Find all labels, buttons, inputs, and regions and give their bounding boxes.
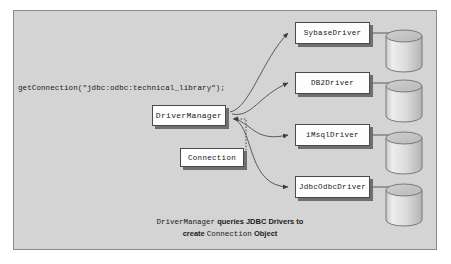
diagram-caption: DriverManager queries JDBC Drivers to cr… [100, 216, 360, 240]
node-sybase-driver[interactable]: SybaseDriver [295, 22, 370, 44]
database-cylinder-3 [386, 132, 422, 174]
jdbc-architecture-diagram: getConnection("jdbc:odbc:technical_libra… [0, 0, 451, 264]
connector-manager-to-sybase [230, 33, 288, 112]
caption-line-1: DriverManager queries JDBC Drivers to [100, 216, 360, 228]
node-sybase-driver-label: SybaseDriver [304, 29, 362, 37]
node-db2-driver-label: DB2Driver [311, 79, 354, 87]
node-imsql-driver-label: iMsqlDriver [306, 131, 359, 139]
caption-line-2: create Connection Object [100, 228, 360, 240]
database-cylinder-2 [386, 80, 422, 122]
node-connection-label: Connection [188, 154, 236, 162]
database-cylinder-4 [386, 184, 422, 226]
node-driver-manager-label: DriverManager [156, 111, 222, 120]
node-db2-driver[interactable]: DB2Driver [295, 72, 370, 94]
node-imsql-driver[interactable]: iMsqlDriver [295, 124, 370, 146]
node-jdbcodbc-driver-label: JdbcOdbcDriver [299, 183, 366, 191]
caption-object-word: Object [252, 229, 277, 238]
caption-driver-manager-term: DriverManager [157, 218, 216, 226]
caption-connection-term: Connection [207, 230, 252, 238]
caption-create-word: create [183, 229, 207, 238]
node-jdbcodbc-driver[interactable]: JdbcOdbcDriver [295, 176, 370, 198]
node-connection[interactable]: Connection [180, 148, 244, 167]
get-connection-code-label: getConnection("jdbc:odbc:technical_libra… [18, 84, 225, 92]
connector-manager-to-db2 [232, 83, 288, 114]
caption-line-1-rest: queries JDBC Drivers to [215, 217, 303, 226]
node-driver-manager[interactable]: DriverManager [152, 105, 226, 126]
database-cylinder-1 [386, 30, 422, 72]
